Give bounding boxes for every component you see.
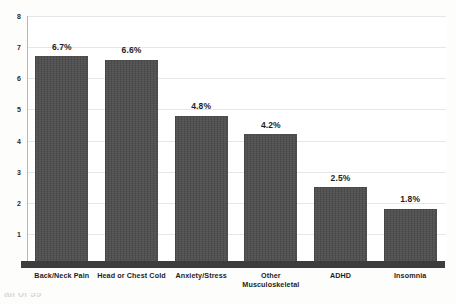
bar-group[interactable]: 6.7% [35, 16, 88, 265]
category-label: Insomnia [375, 271, 445, 280]
bar-value-label: 4.8% [175, 102, 228, 111]
bar-value-label: 2.5% [314, 174, 367, 183]
category-label: OtherMusculoskeletal [236, 271, 306, 289]
category-label-line: Other [236, 271, 306, 280]
scan-artifact: all of 55 [4, 293, 100, 304]
bar[interactable] [244, 134, 297, 265]
y-tick-label-5: 5 [17, 106, 21, 113]
bar-value-label: 1.8% [384, 195, 437, 204]
bar[interactable] [314, 187, 367, 265]
y-tick-label-2: 2 [17, 199, 21, 206]
y-tick-label-1: 1 [17, 230, 21, 237]
bar-chart-figure: 87654321 6.7%6.6%4.8%4.2%2.5%1.8% Back/N… [0, 0, 456, 304]
y-tick-label-4: 4 [17, 137, 21, 144]
y-axis: 87654321 [0, 16, 27, 265]
category-label-line: ADHD [306, 271, 376, 280]
category-label: Anxiety/Stress [166, 271, 236, 280]
bar[interactable] [35, 56, 88, 265]
category-label: Back/Neck Pain [27, 271, 97, 280]
bar-value-label: 6.7% [35, 43, 88, 52]
category-label-line: Head or Chest Cold [97, 271, 167, 280]
bar[interactable] [384, 209, 437, 265]
category-label: Head or Chest Cold [97, 271, 167, 280]
category-label-line: Back/Neck Pain [27, 271, 97, 280]
category-label-line: Anxiety/Stress [166, 271, 236, 280]
bar-group[interactable]: 6.6% [105, 16, 158, 265]
bar[interactable] [105, 60, 158, 265]
category-label-line: Musculoskeletal [236, 280, 306, 289]
y-tick-label-7: 7 [17, 44, 21, 51]
category-label: ADHD [306, 271, 376, 280]
bar-group[interactable]: 4.2% [244, 16, 297, 265]
bar-value-label: 4.2% [244, 121, 297, 130]
x-axis-baseline [21, 261, 445, 268]
bars-layer: 6.7%6.6%4.8%4.2%2.5%1.8% [27, 16, 445, 265]
scan-artifact-text: all of 55 [4, 293, 100, 299]
category-label-line: Insomnia [375, 271, 445, 280]
bar[interactable] [175, 116, 228, 265]
bar-value-label: 6.6% [105, 46, 158, 55]
bar-group[interactable]: 2.5% [314, 16, 367, 265]
y-tick-label-6: 6 [17, 75, 21, 82]
y-tick-label-3: 3 [17, 168, 21, 175]
y-tick-label-8: 8 [17, 13, 21, 20]
bar-group[interactable]: 1.8% [384, 16, 437, 265]
bar-group[interactable]: 4.8% [175, 16, 228, 265]
